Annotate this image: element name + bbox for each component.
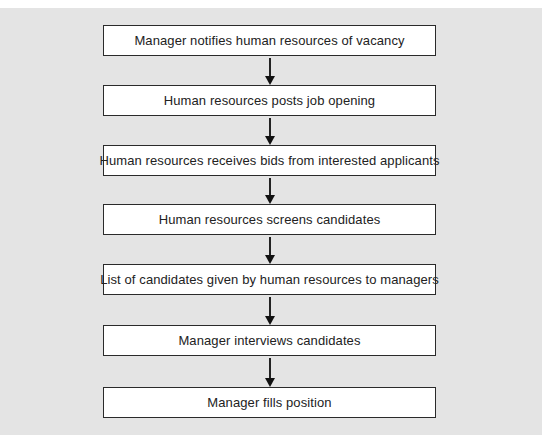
step-label: Manager notifies human resources of vaca… [134,33,404,48]
step-label: Manager interviews candidates [178,333,360,348]
step-box-screen-candidates: Human resources screens candidates [103,204,436,235]
step-box-fill-position: Manager fills position [103,387,436,418]
step-label: Human resources posts job opening [164,93,375,108]
arrow-down-icon [265,316,275,325]
step-box-post-opening: Human resources posts job opening [103,85,436,116]
connector-line [269,118,271,137]
step-label: Human resources receives bids from inter… [99,153,439,168]
hiring-process-flowchart: Manager notifies human resources of vaca… [0,0,544,435]
connector-line [269,178,271,196]
connector-line [269,297,271,317]
step-label: Human resources screens candidates [159,212,381,227]
step-box-notify-vacancy: Manager notifies human resources of vaca… [103,25,436,56]
connector-line [269,58,271,77]
arrow-down-icon [265,76,275,85]
step-label: Manager fills position [207,395,331,410]
arrow-down-icon [265,195,275,204]
step-box-candidate-list: List of candidates given by human resour… [103,264,436,295]
arrow-down-icon [265,378,275,387]
step-label: List of candidates given by human resour… [100,272,439,287]
arrow-down-icon [265,136,275,145]
connector-line [269,358,271,379]
step-box-receive-bids: Human resources receives bids from inter… [103,145,436,176]
connector-line [269,237,271,256]
arrow-down-icon [265,255,275,264]
step-box-interview: Manager interviews candidates [103,325,436,356]
